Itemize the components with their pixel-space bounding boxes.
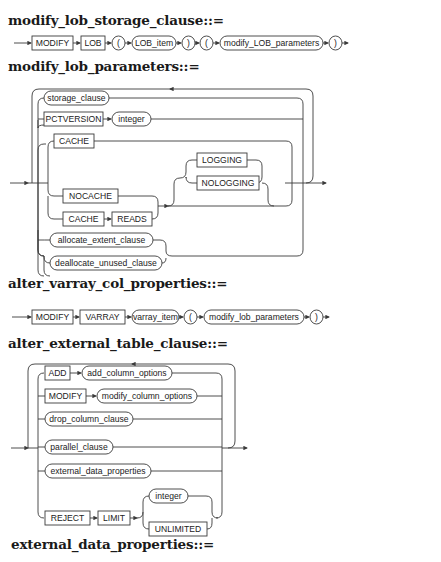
svg-text:LIMIT: LIMIT (103, 513, 126, 523)
symbol-open-paren: ( (184, 310, 197, 324)
svg-text:(: ( (205, 38, 208, 48)
svg-text:LOB: LOB (84, 38, 101, 48)
svg-text:external_data_properties: external_data_properties (50, 466, 145, 476)
keyword-box-varray: VARRAY (80, 310, 125, 324)
nonterminal-storage-clause: storage_clause (44, 91, 109, 105)
svg-text:storage_clause: storage_clause (47, 93, 106, 103)
keyword-box-pctversion: PCTVERSION (44, 112, 103, 126)
svg-text:REJECT: REJECT (51, 513, 85, 523)
keyword-box-logging: LOGGING (197, 153, 247, 167)
svg-text:deallocate_unused_clause: deallocate_unused_clause (55, 258, 157, 268)
svg-text:varray_item: varray_item (133, 312, 178, 322)
keyword-box-nologging: NOLOGGING (197, 176, 259, 190)
nonterminal-deallocate-unused-clause: deallocate_unused_clause (50, 256, 162, 270)
nonterminal-integer: integer (112, 112, 151, 126)
svg-text:modify_column_options: modify_column_options (102, 391, 192, 401)
svg-text:UNLIMITED: UNLIMITED (155, 524, 201, 534)
symbol-open-paren: ( (112, 36, 125, 50)
svg-text:LOB_item: LOB_item (135, 38, 173, 48)
svg-text:NOCACHE: NOCACHE (69, 191, 112, 201)
svg-text:allocate_extent_clause: allocate_extent_clause (58, 235, 146, 245)
keyword-box-add: ADD (45, 366, 70, 380)
nonterminal-external-data-properties: external_data_properties (45, 464, 151, 478)
svg-text:drop_column_clause: drop_column_clause (49, 414, 129, 424)
svg-text:CACHE: CACHE (68, 214, 98, 224)
nonterminal-allocate-extent-clause: allocate_extent_clause (50, 233, 153, 247)
svg-text:(: ( (117, 38, 120, 48)
svg-text:modify_lob_parameters: modify_lob_parameters (209, 312, 299, 322)
svg-text:integer: integer (155, 491, 181, 501)
nonterminal-modify-lob-parameters: modify_lob_parameters (204, 310, 304, 324)
symbol-close-paren-2: ) (329, 36, 342, 50)
keyword-box-nocache: NOCACHE (63, 189, 118, 203)
svg-text:parallel_clause: parallel_clause (50, 442, 108, 452)
diagram-modify-lob-parameters: storage_clause PCTVERSION integer CACHE (10, 89, 326, 276)
diagram-alter-external-table-clause: ADD add_column_options MODIFY modify_col… (11, 364, 247, 536)
nonterminal-integer: integer (149, 489, 188, 503)
svg-text:MODIFY: MODIFY (36, 312, 70, 322)
svg-text:VARRAY: VARRAY (85, 312, 119, 322)
svg-text:(: ( (189, 312, 192, 322)
keyword-box-cache-reads-cache: CACHE (63, 212, 104, 226)
svg-text:modify_LOB_parameters: modify_LOB_parameters (224, 38, 320, 48)
keyword-box-limit: LIMIT (98, 511, 130, 525)
nonterminal-lob-item: LOB_item (132, 36, 176, 50)
keyword-box-reject: REJECT (45, 511, 90, 525)
diagram-modify-lob-storage-clause: MODIFY LOB ( LOB_item ) ( modify (14, 36, 348, 50)
svg-text:add_column_options: add_column_options (87, 368, 166, 378)
svg-text:): ) (334, 38, 337, 48)
diagram-alter-varray-col-properties: MODIFY VARRAY varray_item ( modify_lob_p… (12, 310, 329, 324)
keyword-box-modify: MODIFY (32, 310, 73, 324)
svg-text:PCTVERSION: PCTVERSION (46, 114, 102, 124)
symbol-open-paren-2: ( (200, 36, 213, 50)
keyword-box-reads: READS (112, 212, 152, 226)
nonterminal-parallel-clause: parallel_clause (45, 440, 113, 454)
svg-text:): ) (187, 38, 190, 48)
svg-text:ADD: ADD (48, 368, 66, 378)
nonterminal-varray-item: varray_item (132, 310, 179, 324)
nonterminal-drop-column-clause: drop_column_clause (45, 412, 133, 426)
svg-text:NOLOGGING: NOLOGGING (201, 178, 254, 188)
keyword-box-modify: MODIFY (32, 36, 73, 50)
svg-text:MODIFY: MODIFY (36, 38, 70, 48)
keyword-box-modify: MODIFY (45, 389, 86, 403)
keyword-box-lob: LOB (81, 36, 105, 50)
keyword-box-cache: CACHE (54, 134, 94, 148)
nonterminal-modify-lob-parameters: modify_LOB_parameters (220, 36, 323, 50)
keyword-box-unlimited: UNLIMITED (149, 522, 207, 536)
svg-text:): ) (315, 312, 318, 322)
svg-text:MODIFY: MODIFY (49, 391, 83, 401)
svg-text:CACHE: CACHE (59, 136, 89, 146)
symbol-close-paren: ) (182, 36, 195, 50)
svg-text:LOGGING: LOGGING (202, 155, 242, 165)
svg-text:READS: READS (117, 214, 147, 224)
nonterminal-add-column-options: add_column_options (82, 366, 172, 380)
svg-text:integer: integer (118, 114, 144, 124)
symbol-close-paren: ) (310, 310, 323, 324)
nonterminal-modify-column-options: modify_column_options (97, 389, 197, 403)
